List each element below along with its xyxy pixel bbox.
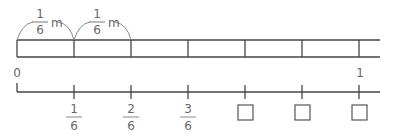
answer-box-6[interactable] (352, 105, 367, 120)
svg-text:1: 1 (36, 7, 44, 21)
one-label: 1 (356, 66, 364, 80)
svg-text:6: 6 (70, 119, 78, 133)
svg-text:6: 6 (36, 23, 44, 37)
svg-text:6: 6 (127, 119, 135, 133)
tick-label-1-6: 1 6 (66, 102, 82, 133)
svg-text:m: m (108, 16, 120, 30)
svg-text:6: 6 (93, 23, 101, 37)
tick-label-2-6: 2 6 (123, 102, 139, 133)
answer-box-4[interactable] (238, 105, 253, 120)
zero-label: 0 (13, 66, 21, 80)
svg-text:1: 1 (93, 7, 101, 21)
tape-diagram (17, 40, 380, 57)
svg-text:2: 2 (127, 102, 135, 116)
svg-text:3: 3 (184, 102, 192, 116)
tick-label-3-6: 3 6 (180, 102, 196, 133)
segment-label-2: 1 6 m (89, 7, 120, 37)
fraction-diagram: 1 6 m 1 6 m 0 1 1 6 2 6 3 6 (0, 0, 394, 136)
segment-label-1: 1 6 m (32, 7, 63, 37)
svg-text:m: m (51, 16, 63, 30)
svg-text:1: 1 (70, 102, 78, 116)
number-line (17, 83, 380, 99)
answer-box-5[interactable] (295, 105, 310, 120)
svg-text:6: 6 (184, 119, 192, 133)
